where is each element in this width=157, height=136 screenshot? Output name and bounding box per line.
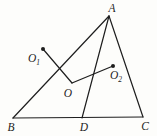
label-c: C: [141, 120, 149, 132]
segment-o1-o: [43, 49, 72, 83]
point-o2-dot: [111, 64, 115, 68]
label-a: A: [107, 2, 116, 14]
label-d: D: [79, 121, 89, 133]
geometry-figure: A B C D O O1 O2: [0, 0, 157, 136]
label-o1: O1: [28, 52, 40, 67]
label-o2-subscript: 2: [118, 75, 122, 84]
point-o1-dot: [41, 47, 45, 51]
label-o2: O2: [110, 69, 122, 84]
label-o: O: [64, 87, 73, 99]
edge-bc: [13, 117, 143, 118]
cevian-ad: [82, 16, 109, 118]
triangle-diagram: A B C D O O1 O2: [0, 0, 157, 136]
label-b: B: [7, 121, 14, 133]
edge-ab: [13, 16, 109, 118]
label-o1-subscript: 1: [36, 58, 40, 67]
